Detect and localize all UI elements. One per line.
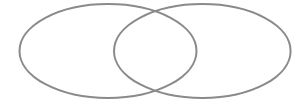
venn-diagram: [0, 0, 307, 109]
venn-set-right-ellipse: [114, 4, 291, 98]
venn-set-left-ellipse: [20, 4, 197, 98]
